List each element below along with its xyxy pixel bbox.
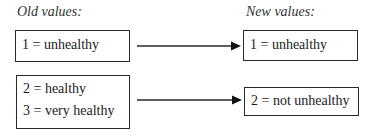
mapping-arrows [0, 0, 377, 137]
arrow-icon [137, 42, 241, 51]
arrow-icon [137, 96, 242, 105]
